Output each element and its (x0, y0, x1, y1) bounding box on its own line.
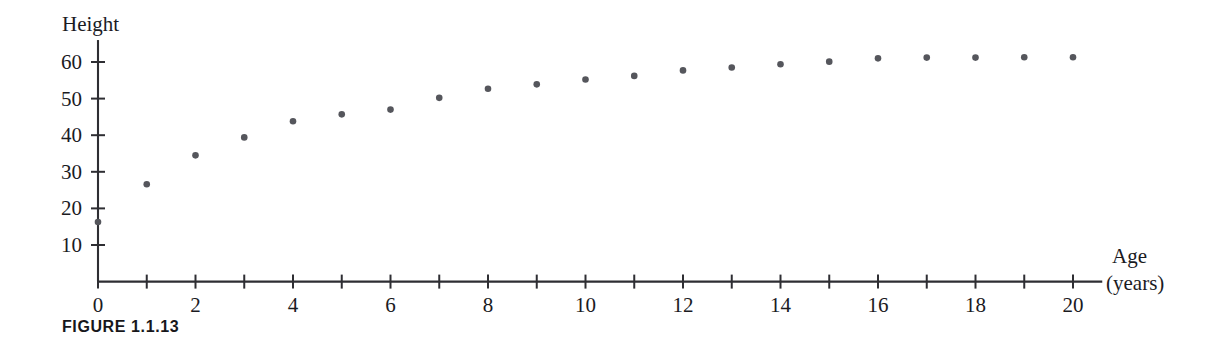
x-axis-title-line2: (years) (1106, 271, 1164, 295)
axes-group (98, 40, 1102, 282)
x-axis-tick-label: 8 (483, 293, 494, 317)
x-axis-tick-label: 12 (673, 293, 694, 317)
x-axis-tick-label: 6 (385, 293, 396, 317)
data-point (680, 67, 687, 74)
y-axis-tick-label: 60 (61, 50, 82, 74)
data-point (143, 181, 150, 188)
x-axis-tick-label: 2 (190, 293, 201, 317)
figure-container: 10203040506002468101214161820 Height Age… (0, 0, 1227, 350)
data-point (387, 106, 394, 113)
y-axis-tick-label: 20 (61, 196, 82, 220)
data-point (582, 76, 589, 83)
x-axis-tick-label: 16 (868, 293, 889, 317)
x-axis-tick-label: 4 (288, 293, 299, 317)
data-point (1021, 54, 1028, 61)
ticks-group (91, 62, 1073, 289)
data-point (290, 118, 297, 125)
data-point (826, 58, 833, 65)
x-axis-tick-label: 18 (965, 293, 986, 317)
data-point (923, 54, 930, 61)
y-axis-tick-label: 40 (61, 123, 82, 147)
scatter-plot: 10203040506002468101214161820 Height Age… (0, 0, 1227, 350)
data-point (192, 152, 199, 159)
x-axis-tick-label: 0 (93, 293, 104, 317)
x-axis-tick-label: 10 (575, 293, 596, 317)
x-axis-tick-label: 14 (770, 293, 792, 317)
y-axis-tick-label: 50 (61, 87, 82, 111)
data-point (241, 134, 248, 141)
data-point (972, 54, 979, 61)
x-axis-title-line1: Age (1112, 244, 1147, 268)
data-point (436, 95, 443, 102)
data-point (485, 85, 492, 92)
y-axis-title: Height (62, 12, 119, 36)
data-point (1070, 54, 1077, 61)
data-point (338, 111, 345, 118)
data-point (875, 55, 882, 62)
y-axis-tick-label: 10 (61, 233, 82, 257)
y-axis-tick-label: 30 (61, 160, 82, 184)
data-point (777, 61, 784, 68)
tick-labels-group: 10203040506002468101214161820 (61, 50, 1084, 317)
figure-caption: FIGURE 1.1.13 (62, 318, 179, 336)
data-point (728, 64, 735, 71)
data-point (533, 81, 540, 88)
data-point (95, 219, 102, 226)
x-axis-tick-label: 20 (1063, 293, 1084, 317)
data-points-group (95, 54, 1077, 225)
data-point (631, 73, 638, 80)
